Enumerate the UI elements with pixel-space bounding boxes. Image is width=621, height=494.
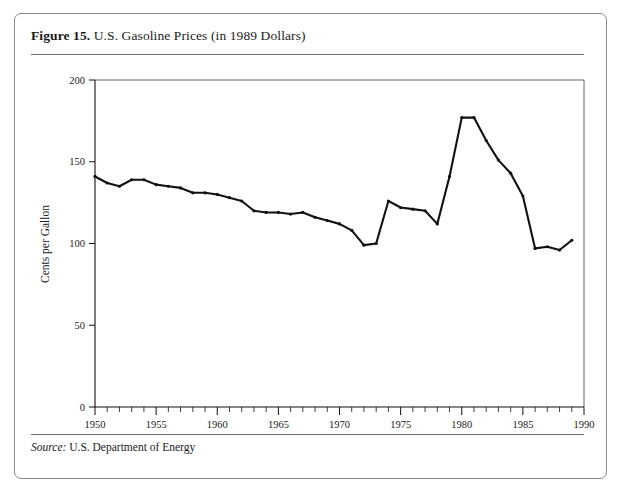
axes [95, 80, 584, 407]
data-point [118, 185, 121, 188]
data-point [228, 196, 231, 199]
data-point [106, 181, 109, 184]
data-point [387, 199, 390, 202]
data-point [240, 199, 243, 202]
data-point [509, 172, 512, 175]
data-point [436, 222, 439, 225]
data-point [277, 211, 280, 214]
x-tick-label: 1960 [207, 419, 228, 430]
x-tick-label: 1965 [268, 419, 289, 430]
data-point [485, 139, 488, 142]
data-point [252, 209, 255, 212]
data-point [289, 212, 292, 215]
gasoline-price-markers [93, 116, 573, 252]
data-point [130, 178, 133, 181]
data-point [313, 216, 316, 219]
data-point [460, 116, 463, 119]
data-point [546, 245, 549, 248]
data-point [155, 183, 158, 186]
data-point [497, 159, 500, 162]
source-text: U.S. Department of Energy [66, 441, 195, 453]
data-point [191, 191, 194, 194]
y-tick-label: 200 [69, 75, 85, 86]
x-tick-label: 1970 [329, 419, 350, 430]
data-point [326, 219, 329, 222]
plot-frame [95, 80, 584, 407]
data-point [448, 175, 451, 178]
source-divider [31, 434, 584, 435]
data-point [558, 248, 561, 251]
data-point [423, 209, 426, 212]
data-point [338, 222, 341, 225]
source-label: Source: [31, 441, 66, 453]
data-point [399, 206, 402, 209]
y-axis-ticks: 050100150200 [69, 75, 95, 413]
x-tick-label: 1975 [390, 419, 411, 430]
data-point [216, 193, 219, 196]
data-point [350, 229, 353, 232]
data-point [521, 194, 524, 197]
x-tick-label: 1950 [85, 419, 106, 430]
y-axis-title: Cents per Gallon [39, 205, 52, 283]
data-point [301, 211, 304, 214]
chart-plot-area: 050100150200 195019551960196519701975198… [15, 14, 608, 480]
data-point [534, 247, 537, 250]
data-point [472, 116, 475, 119]
data-point [411, 208, 414, 211]
figure-source: Source: U.S. Department of Energy [31, 441, 195, 453]
data-point [362, 244, 365, 247]
x-tick-label: 1980 [451, 419, 472, 430]
data-point [179, 186, 182, 189]
data-point [570, 239, 573, 242]
data-series-group [93, 116, 573, 252]
data-point [375, 242, 378, 245]
gasoline-price-line-chart: 050100150200 195019551960196519701975198… [15, 14, 608, 480]
data-point [167, 185, 170, 188]
figure-card: Figure 15. U.S. Gasoline Prices (in 1989… [14, 13, 607, 479]
x-tick-label: 1985 [512, 419, 533, 430]
gasoline-price-line [95, 118, 572, 250]
y-tick-label: 100 [69, 238, 85, 249]
x-axis-ticks: 195019551960196519701975198019851990 [85, 407, 595, 430]
data-point [142, 178, 145, 181]
y-tick-label: 150 [69, 156, 85, 167]
data-point [203, 191, 206, 194]
y-tick-label: 0 [80, 402, 85, 413]
y-tick-label: 50 [75, 320, 86, 331]
x-tick-label: 1990 [574, 419, 595, 430]
data-point [93, 175, 96, 178]
x-tick-label: 1955 [146, 419, 167, 430]
data-point [265, 211, 268, 214]
